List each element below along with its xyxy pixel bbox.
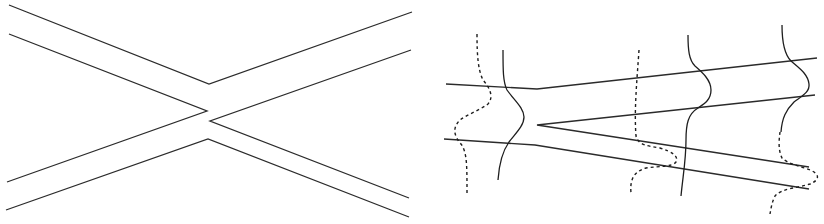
dashed-wave-profile-2 — [631, 50, 677, 193]
right-inner-boundary — [210, 50, 411, 198]
left-inner-boundary — [7, 34, 207, 182]
top-v-boundary — [9, 5, 412, 84]
dashed-wave-profile-1 — [455, 34, 491, 193]
solid-wave-profile-2 — [681, 35, 711, 196]
x-crossing-diagram — [0, 0, 824, 224]
solid-wave-profile-3 — [781, 25, 809, 132]
bottom-v-boundary — [6, 139, 409, 217]
figure — [0, 0, 824, 224]
solid-wave-profile-1 — [498, 50, 524, 180]
upper-outer-boundary — [446, 58, 817, 89]
x-crossing-boundaries — [6, 5, 412, 217]
dashed-wave-profile-3 — [770, 132, 818, 214]
branching-channel-diagram — [444, 25, 818, 214]
lower-outer-boundary — [444, 139, 809, 189]
